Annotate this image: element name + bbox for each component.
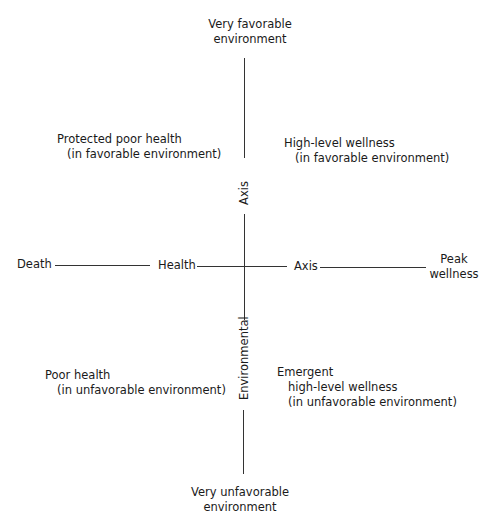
quadrant-upper-right: High-level wellness (in favorable enviro…: [284, 136, 449, 166]
lower-left-title: Poor health: [45, 368, 226, 383]
vertical-axis-line-top: [244, 58, 245, 158]
vertical-axis-upper-word: Axis: [237, 181, 251, 205]
quadrant-upper-left: Protected poor health (in favorable envi…: [57, 132, 221, 162]
vertical-axis-line-bottom: [243, 410, 244, 474]
horizontal-axis-line-left: [55, 265, 150, 266]
upper-right-subtitle: (in favorable environment): [284, 151, 449, 166]
horizontal-axis-right-word: Axis: [294, 259, 318, 274]
quadrant-lower-right: Emergent high-level wellness (in unfavor…: [277, 365, 457, 410]
top-label-line1: Very favorable: [190, 17, 310, 32]
upper-left-subtitle: (in favorable environment): [57, 147, 221, 162]
top-label-very-favorable: Very favorable environment: [190, 17, 310, 47]
horizontal-axis-line-middle: [197, 266, 287, 267]
bottom-label-very-unfavorable: Very unfavorable environment: [180, 485, 300, 515]
lower-right-subtitle: high-level wellness: [277, 380, 457, 395]
bottom-label-line2: environment: [180, 500, 300, 515]
horizontal-axis-left-end: Death: [17, 257, 52, 272]
horizontal-axis-line-right: [320, 267, 426, 268]
right-end-line2: wellness: [428, 267, 480, 282]
horizontal-axis-right-end: Peak wellness: [428, 252, 480, 282]
vertical-axis-line-mid-upper: [244, 214, 245, 320]
bottom-label-line1: Very unfavorable: [180, 485, 300, 500]
quadrant-lower-left: Poor health (in unfavorable environment): [45, 368, 226, 398]
vertical-axis-lower-word: Environmental: [237, 324, 251, 400]
upper-left-title: Protected poor health: [57, 132, 221, 147]
right-end-line1: Peak: [428, 252, 480, 267]
top-label-line2: environment: [190, 32, 310, 47]
lower-right-subtitle-2: (in unfavorable environment): [277, 395, 457, 410]
lower-left-subtitle: (in unfavorable environment): [45, 383, 226, 398]
horizontal-axis-left-word: Health: [158, 258, 196, 273]
lower-right-title: Emergent: [277, 365, 457, 380]
upper-right-title: High-level wellness: [284, 136, 449, 151]
